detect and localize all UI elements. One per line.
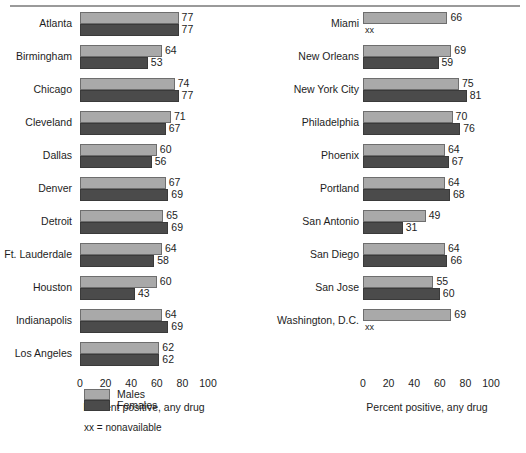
bar-row: Miami66xx [263, 10, 526, 43]
x-axis-right: 020406080100 [263, 377, 526, 393]
bar-value-females: 81 [467, 89, 482, 101]
bar-males [80, 243, 162, 255]
bar-value-males: 75 [459, 77, 474, 89]
x-axis-tick-label: 60 [434, 377, 446, 389]
chart-panel-right: Miami66xxNew Orleans6959New York City758… [263, 10, 526, 340]
bar-row: Portland6468 [263, 175, 526, 208]
city-label: Philadelphia [263, 109, 359, 135]
x-axis-tick-label: 80 [177, 377, 189, 389]
bar-row: San Jose5560 [263, 274, 526, 307]
bar-value-females: 67 [166, 122, 181, 134]
bar-row: New Orleans6959 [263, 43, 526, 76]
bar-males [80, 12, 179, 24]
bar-rows-left: Atlanta7777Birmingham6453Chicago7477Clev… [0, 10, 263, 373]
bar-males [80, 342, 159, 354]
x-axis-tick-label: 0 [360, 377, 366, 389]
city-label: Houston [0, 274, 72, 300]
bar-value-males: 64 [162, 242, 177, 254]
bar-females [80, 222, 168, 234]
bar-value-males: 64 [445, 143, 460, 155]
x-axis-tick-label: 20 [100, 377, 112, 389]
bar-females [80, 354, 159, 366]
bar-males [80, 78, 175, 90]
bar-value-females: 59 [439, 56, 454, 68]
chart-panel-left: Atlanta7777Birmingham6453Chicago7477Clev… [0, 10, 263, 373]
bar-value-females: 67 [449, 155, 464, 167]
bar-females [363, 57, 439, 69]
bar-females [363, 288, 440, 300]
bar-value-males: 49 [426, 209, 441, 221]
bar-value-males: 67 [166, 176, 181, 188]
city-label: San Antonio [263, 208, 359, 234]
bar-females [80, 189, 168, 201]
bar-value-males: 74 [175, 77, 190, 89]
city-label: Indianapolis [0, 307, 72, 333]
bar-row: Detroit6569 [0, 208, 263, 241]
legend-swatch-females [84, 400, 110, 411]
bar-value-males: 77 [179, 11, 194, 23]
city-label: Birmingham [0, 43, 72, 69]
bar-row: Atlanta7777 [0, 10, 263, 43]
city-label: Los Angeles [0, 340, 72, 366]
bar-value-males: 64 [162, 44, 177, 56]
bar-row: Washington, D.C.69xx [263, 307, 526, 340]
city-label: New Orleans [263, 43, 359, 69]
bar-row: Dallas6056 [0, 142, 263, 175]
bar-females [80, 123, 166, 135]
bar-row: Chicago7477 [0, 76, 263, 109]
bar-value-females: 68 [450, 188, 465, 200]
bar-row: San Diego6466 [263, 241, 526, 274]
top-divider-rule [10, 5, 520, 7]
bar-males [80, 111, 171, 123]
bar-value-females: 69 [168, 320, 183, 332]
bar-males [363, 78, 459, 90]
bar-value-males: 65 [163, 209, 178, 221]
bar-females [80, 90, 179, 102]
bar-row: Birmingham6453 [0, 43, 263, 76]
bar-value-males: 60 [157, 275, 172, 287]
bar-males [363, 144, 445, 156]
bar-value-males: 64 [445, 176, 460, 188]
bar-value-females: 58 [154, 254, 169, 266]
city-label: San Jose [263, 274, 359, 300]
bar-row: San Antonio4931 [263, 208, 526, 241]
bar-females [80, 24, 179, 36]
city-label: Chicago [0, 76, 72, 102]
bar-males [363, 276, 433, 288]
bar-value-males: 55 [433, 275, 448, 287]
bar-value-males: 60 [157, 143, 172, 155]
bar-females [80, 57, 148, 69]
city-label: Ft. Lauderdale [0, 241, 72, 267]
bar-rows-right: Miami66xxNew Orleans6959New York City758… [263, 10, 526, 340]
bar-value-males: 69 [451, 308, 466, 320]
bar-row: Indianapolis6469 [0, 307, 263, 340]
chart-figure: Atlanta7777Birmingham6453Chicago7477Clev… [0, 0, 526, 453]
bar-value-females: 56 [152, 155, 167, 167]
bar-value-females: 62 [159, 353, 174, 365]
nonavailable-marker-females: xx [365, 24, 374, 36]
bar-value-females: 66 [447, 254, 462, 266]
bar-value-females: 77 [179, 89, 194, 101]
bar-value-males: 66 [447, 11, 462, 23]
bar-males [80, 309, 162, 321]
legend-note-nonavailable: xx = nonavailable [84, 422, 162, 433]
legend-swatches [84, 389, 110, 411]
city-label: Dallas [0, 142, 72, 168]
bar-males [363, 177, 445, 189]
city-label: Portland [263, 175, 359, 201]
bar-males [363, 309, 451, 321]
bar-value-females: 53 [148, 56, 163, 68]
city-label: Atlanta [0, 10, 72, 36]
bar-value-females: 76 [460, 122, 475, 134]
bar-value-males: 62 [159, 341, 174, 353]
city-label: New York City [263, 76, 359, 102]
bar-value-males: 70 [453, 110, 468, 122]
bar-row: Phoenix6467 [263, 142, 526, 175]
bar-females [363, 222, 403, 234]
bar-value-females: 77 [179, 23, 194, 35]
bar-value-females: 69 [168, 188, 183, 200]
nonavailable-marker-females: xx [365, 321, 374, 333]
bar-row: Houston6043 [0, 274, 263, 307]
bar-females [80, 288, 135, 300]
bar-value-males: 71 [171, 110, 186, 122]
